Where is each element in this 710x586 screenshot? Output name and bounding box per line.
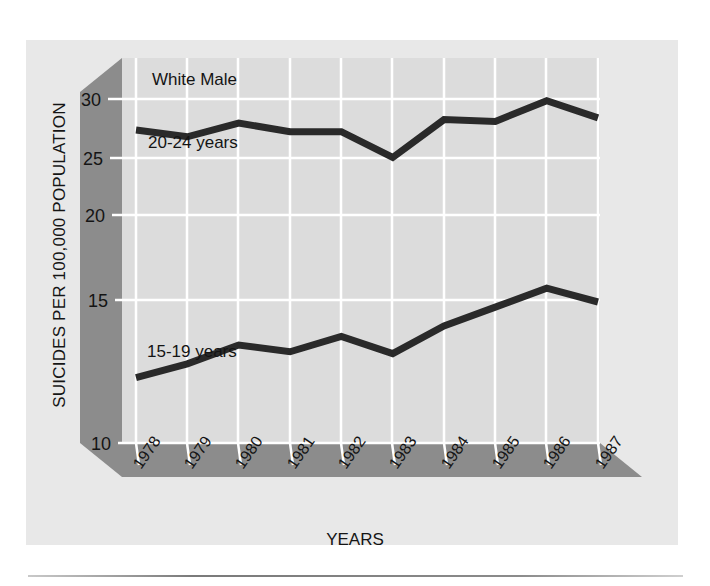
- y-tick-label: 20: [85, 206, 105, 226]
- y-tick-label: 25: [83, 149, 103, 169]
- y-tick-label: 15: [88, 291, 108, 311]
- y-tick-label: 10: [91, 434, 111, 454]
- bottom-divider: [28, 575, 683, 577]
- y-axis-band: [80, 58, 122, 443]
- chart-canvas: 30 25 20 15 10 1978 1979 1980 1981 1982 …: [0, 0, 710, 586]
- plot-area: [122, 58, 600, 443]
- x-axis-title: YEARS: [0, 530, 710, 550]
- y-tick-label: 30: [81, 90, 101, 110]
- chart-title-annotation: White Male: [152, 70, 237, 89]
- series-label-20-24: 20-24 years: [148, 133, 238, 152]
- y-axis-title: SUICIDES PER 100,000 POPULATION: [50, 45, 70, 465]
- series-label-15-19: 15-19 years: [147, 342, 237, 361]
- figure: 30 25 20 15 10 1978 1979 1980 1981 1982 …: [0, 0, 710, 586]
